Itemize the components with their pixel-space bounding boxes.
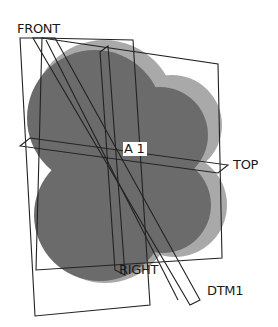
- label-dtm1[interactable]: DTM1: [207, 284, 243, 297]
- model-viewport[interactable]: FRONT TOP RIGHT DTM1 A 1: [0, 0, 278, 327]
- label-right[interactable]: RIGHT: [119, 263, 158, 276]
- label-axis-a1[interactable]: A 1: [123, 142, 147, 156]
- label-top[interactable]: TOP: [233, 158, 258, 171]
- label-front[interactable]: FRONT: [17, 22, 60, 35]
